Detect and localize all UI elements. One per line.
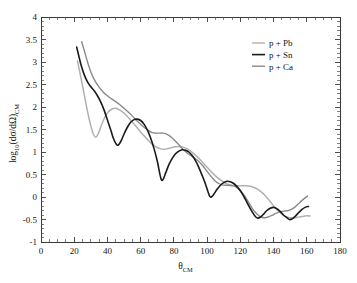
legend-label-p-sn[interactable]: p + Sn: [269, 50, 293, 60]
x-tick-label: 0: [39, 246, 44, 256]
x-tick-label: 20: [70, 246, 80, 256]
legend-label-p-pb[interactable]: p + Pb: [269, 38, 293, 48]
x-tick-label: 80: [169, 246, 179, 256]
y-tick-label: 2.5: [26, 80, 38, 90]
x-tick-label: 60: [136, 246, 146, 256]
y-tick-label: 3: [33, 57, 38, 67]
y-tick-label: -0.5: [23, 215, 38, 225]
x-tick-label: 180: [333, 246, 347, 256]
y-tick-label: 3.5: [26, 35, 38, 45]
y-tick-label: -1: [30, 237, 38, 247]
y-tick-label: 0: [33, 192, 38, 202]
scatter-line-plot: 020406080100120140160180-1-0.500.511.522…: [0, 0, 357, 283]
y-tick-label: 0.5: [26, 170, 38, 180]
x-tick-label: 40: [103, 246, 113, 256]
legend-label-p-ca[interactable]: p + Ca: [269, 62, 293, 72]
y-tick-label: 4: [33, 12, 38, 22]
chart-container: 020406080100120140160180-1-0.500.511.522…: [0, 0, 357, 283]
x-tick-label: 140: [267, 246, 281, 256]
x-tick-label: 100: [200, 246, 214, 256]
y-tick-label: 1: [33, 147, 38, 157]
y-tick-label: 2: [33, 102, 38, 112]
chart-legend[interactable]: p + Pbp + Snp + Ca: [252, 38, 293, 71]
plot-background: [0, 0, 357, 283]
y-tick-label: 1.5: [26, 125, 38, 135]
x-tick-label: 120: [234, 246, 248, 256]
x-tick-label: 160: [300, 246, 314, 256]
